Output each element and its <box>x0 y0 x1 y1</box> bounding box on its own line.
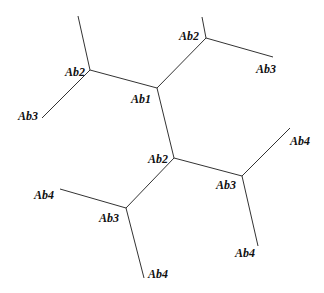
edge-ab3left-ab4left <box>60 189 126 208</box>
label-ab3-left: Ab3 <box>98 211 119 225</box>
label-ab3-right: Ab3 <box>215 178 236 192</box>
label-ab4-bottom-left: Ab4 <box>147 267 168 281</box>
node-labels: Ab1 Ab2 Ab2 Ab2 Ab3 Ab3 Ab3 Ab3 Ab4 Ab4 … <box>17 29 310 281</box>
label-ab3-leaf-top: Ab3 <box>255 62 276 76</box>
edge-ab1-ab2top <box>157 38 206 88</box>
edge-ab3left-ab4bottom <box>126 208 144 278</box>
edge-ab2left-ab1 <box>90 70 157 88</box>
edge-ab1-ab2mid <box>157 88 174 158</box>
label-ab4-right: Ab4 <box>289 134 310 148</box>
edges <box>42 16 290 278</box>
edge-ab2mid-ab3right <box>174 158 242 176</box>
label-ab3-leaf-left: Ab3 <box>17 109 38 123</box>
label-ab1: Ab1 <box>130 92 151 106</box>
label-ab4-left: Ab4 <box>33 188 54 202</box>
edge-ab2left-up <box>78 16 90 70</box>
edge-ab2top-up <box>202 17 206 38</box>
label-ab2-top: Ab2 <box>178 29 199 43</box>
edge-ab3right-ab4right <box>242 128 290 176</box>
tree-diagram: Ab1 Ab2 Ab2 Ab2 Ab3 Ab3 Ab3 Ab3 Ab4 Ab4 … <box>0 0 324 293</box>
label-ab4-bottom-right: Ab4 <box>234 246 255 260</box>
label-ab2-left: Ab2 <box>64 65 85 79</box>
edge-ab2top-ab3leaf <box>206 38 273 57</box>
edge-ab3right-ab4bottom <box>242 176 258 246</box>
label-ab2-mid: Ab2 <box>147 152 168 166</box>
